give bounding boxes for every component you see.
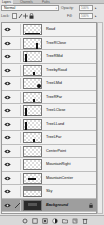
layer-row[interactable]: Road [2,23,96,37]
layer-row[interactable]: TreeRMid [2,50,96,64]
fill-input[interactable]: 100% [79,13,93,19]
layer-row[interactable]: TreeLLand [2,118,96,132]
visibility-eye-icon[interactable] [4,95,11,100]
layer-row[interactable]: MountainCenter [2,172,96,186]
layer-name[interactable]: TreeRClose [46,37,66,50]
lock-all-icon[interactable] [29,13,34,19]
layer-row[interactable]: TreebyRoad [2,64,96,78]
layer-link-slot[interactable] [14,38,21,49]
layer-thumbnail [23,173,42,184]
layer-thumbnail [23,51,42,62]
layer-thumbnail [23,186,42,197]
visibility-eye-icon[interactable] [4,176,11,181]
layer-name[interactable]: TreebyRoad [46,64,67,77]
layer-thumbnail [23,105,42,116]
layer-row[interactable]: TreeLClose [2,104,96,118]
layer-name[interactable]: TreeLLand [46,118,64,131]
layer-link-slot[interactable] [14,119,21,130]
lock-position-icon[interactable] [23,13,28,19]
layer-name[interactable]: Background [46,199,68,212]
tab-paths[interactable]: Paths [40,0,52,4]
fill-label: Fill: [67,13,72,20]
layer-row[interactable]: TreeRClose [2,37,96,51]
new-layer-icon[interactable] [72,218,78,224]
lock-transparent-pixels-icon[interactable] [12,13,17,19]
layer-link-slot[interactable] [14,186,21,197]
blend-mode-value: Normal [4,6,15,10]
opacity-label: Opacity: [61,5,74,11]
layer-name[interactable]: TreeLFar [46,131,61,144]
visibility-eye-icon[interactable] [4,162,11,167]
opacity-slider-arrow-icon[interactable]: ▸ [94,5,98,11]
add-mask-icon[interactable] [42,218,48,224]
layer-thumbnail [23,132,42,143]
layer-row[interactable]: CenterPoint [2,145,96,159]
layer-list-scrollbar[interactable] [97,22,103,214]
layer-thumbnail [23,159,42,170]
visibility-eye-icon[interactable] [4,54,11,59]
visibility-eye-icon[interactable] [4,81,11,86]
chevron-updown-icon: ↕ [56,6,58,10]
layers-panel: Layers Channels Paths Normal ↕ Opacity: … [0,0,104,225]
adjustment-layer-icon[interactable] [52,218,58,224]
layer-name[interactable]: TreeLClose [46,104,66,117]
layer-link-slot[interactable] [14,146,21,157]
layer-row[interactable]: Sky [2,185,96,199]
fill-slider-arrow-icon[interactable]: ▸ [94,13,98,19]
layer-link-slot[interactable] [14,173,21,184]
layer-link-slot[interactable] [14,78,21,89]
layer-thumbnail [23,146,42,157]
layer-name[interactable]: MountainRight [46,158,70,171]
visibility-eye-icon[interactable] [4,27,11,32]
visibility-eye-icon[interactable] [4,203,11,208]
visibility-eye-icon[interactable] [4,122,11,127]
visibility-eye-icon[interactable] [4,135,11,140]
blend-mode-select[interactable]: Normal ↕ [1,5,59,11]
brush-icon[interactable] [14,200,21,211]
layer-link-slot[interactable] [14,105,21,116]
layer-thumbnail [23,92,42,103]
lock-label: Lock: [1,13,9,20]
layer-row[interactable]: TreeLFar [2,131,96,145]
layer-name[interactable]: CenterPoint [46,145,66,158]
panel-tabs: Layers Channels Paths [0,0,104,4]
layer-link-slot[interactable] [14,92,21,103]
layer-name[interactable]: MountainCenter [46,172,73,185]
layer-thumbnail [23,24,42,35]
layer-name[interactable]: Road [46,23,55,36]
layer-link-slot[interactable] [14,24,21,35]
new-group-icon[interactable] [62,218,68,224]
visibility-eye-icon[interactable] [4,41,11,46]
blend-opacity-row: Normal ↕ Opacity: 100% ▸ [1,5,103,11]
layer-thumbnail [23,119,42,130]
layer-name[interactable]: Sky [46,185,52,198]
layer-row[interactable]: Background [2,199,96,213]
layer-link-slot[interactable] [14,132,21,143]
layer-name[interactable]: TreeRFar [46,91,62,104]
layers-bottom-bar [0,215,104,225]
visibility-eye-icon[interactable] [4,189,11,194]
layer-thumbnail [23,65,42,76]
tab-channels[interactable]: Channels [18,0,35,4]
lock-icon [89,203,93,208]
layer-link-slot[interactable] [14,51,21,62]
visibility-eye-icon[interactable] [4,149,11,154]
layer-row[interactable]: MountainRight [2,158,96,172]
layer-list: RoadTreeRCloseTreeRMidTreebyRoadTreeLMid… [1,22,97,214]
layer-row[interactable]: TreeLMid [2,77,96,91]
visibility-eye-icon[interactable] [4,108,11,113]
link-layers-icon[interactable] [22,218,28,224]
layer-link-slot[interactable] [14,159,21,170]
layer-name[interactable]: TreeRMid [46,50,63,63]
delete-layer-icon[interactable] [82,218,88,224]
opacity-input[interactable]: 100% [79,5,93,11]
tab-layers[interactable]: Layers [0,0,13,4]
layer-row[interactable]: TreeRFar [2,91,96,105]
layer-name[interactable]: TreeLMid [46,77,62,90]
layer-thumbnail [23,78,42,89]
visibility-eye-icon[interactable] [4,68,11,73]
lock-fill-row: Lock: Fill: 100% ▸ [1,13,103,20]
layer-thumbnail [23,200,42,211]
layer-link-slot[interactable] [14,65,21,76]
layer-style-icon[interactable] [32,218,38,224]
